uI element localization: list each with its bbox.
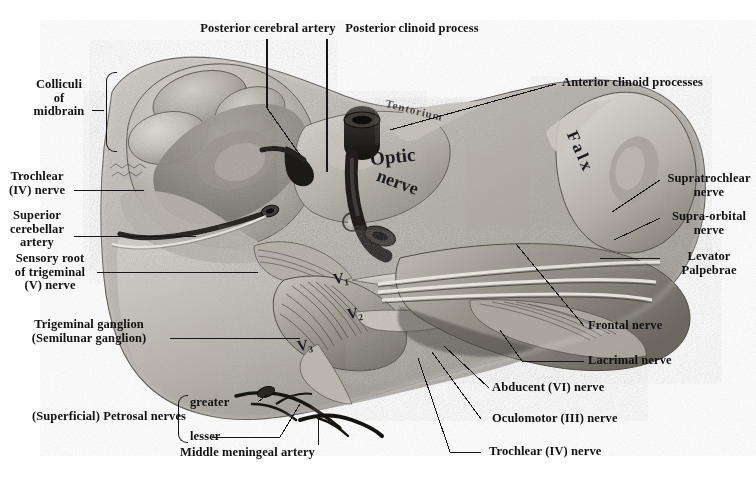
label-superior-cerebellar-artery: Superior cerebellar artery [2,209,72,250]
label-levator-palpebrae: Levator Palpebrae [663,250,755,277]
label-oculomotor-iii-nerve: Oculomotor (III) nerve [492,412,682,426]
label-trigeminal-ganglion: Trigeminal ganglion (Semilunar ganglion) [10,318,168,345]
label-supra-orbital-nerve: Supra-orbital nerve [663,210,755,237]
label-superficial-petrosal-nerves: (Superficial) Petrosal nerves [32,410,178,424]
label-anterior-clinoid-processes: Anterior clinoid processes [562,76,756,90]
label-petrosal-lesser: lesser [190,430,254,444]
anatomical-plate: Optic nerve Falx Tentorium V₁ V₂ V₃ [0,0,756,482]
label-colliculi-of-midbrain: Colliculi of midbrain [20,78,98,119]
label-petrosal-greater: greater [190,396,254,410]
label-lacrimal-nerve: Lacrimal nerve [588,354,728,368]
label-sensory-root-of-trigeminal: Sensory root of trigeminal (V) nerve [4,252,96,293]
label-frontal-nerve: Frontal nerve [588,319,728,333]
label-trochlear-iv-nerve-right: Trochlear (IV) nerve [489,445,679,459]
label-abducent-vi-nerve: Abducent (VI) nerve [492,381,672,395]
label-posterior-clinoid-process: Posterior clinoid process [293,22,531,36]
label-middle-meningeal-artery: Middle meningeal artery [180,446,380,460]
label-trochlear-iv-nerve-left: Trochlear (IV) nerve [2,170,72,197]
bracket-colliculi [106,72,117,152]
label-supratrochlear-nerve: Supratrochlear nerve [663,172,755,199]
